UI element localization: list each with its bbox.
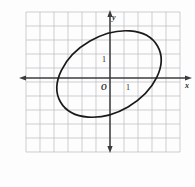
y-tick-label-1: 1 bbox=[102, 55, 106, 64]
x-axis-label: x bbox=[184, 81, 189, 90]
y-axis-label: y bbox=[111, 13, 116, 22]
origin-label: O bbox=[101, 83, 107, 92]
graph-figure: y x O 1 1 bbox=[0, 0, 195, 187]
x-tick-label-1: 1 bbox=[126, 83, 130, 92]
coordinate-plane-svg: y x O 1 1 bbox=[0, 0, 195, 187]
